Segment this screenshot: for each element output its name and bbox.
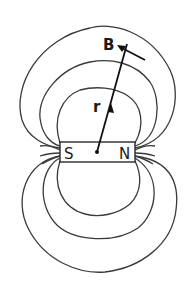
field-line-bottom-outer	[22, 156, 177, 272]
field-lines-bottom	[22, 156, 177, 272]
B-label: B	[103, 36, 114, 54]
field-line-bottom-inner	[57, 161, 139, 216]
field-line-bottom-middle	[43, 158, 154, 239]
magnetic-dipole-diagram: S N r B	[0, 0, 193, 292]
bar-magnet: S N	[60, 142, 135, 163]
north-pole-label: N	[119, 145, 130, 163]
r-label: r	[93, 98, 101, 116]
south-pole-label: S	[64, 145, 74, 163]
field-lines-top	[20, 26, 175, 148]
